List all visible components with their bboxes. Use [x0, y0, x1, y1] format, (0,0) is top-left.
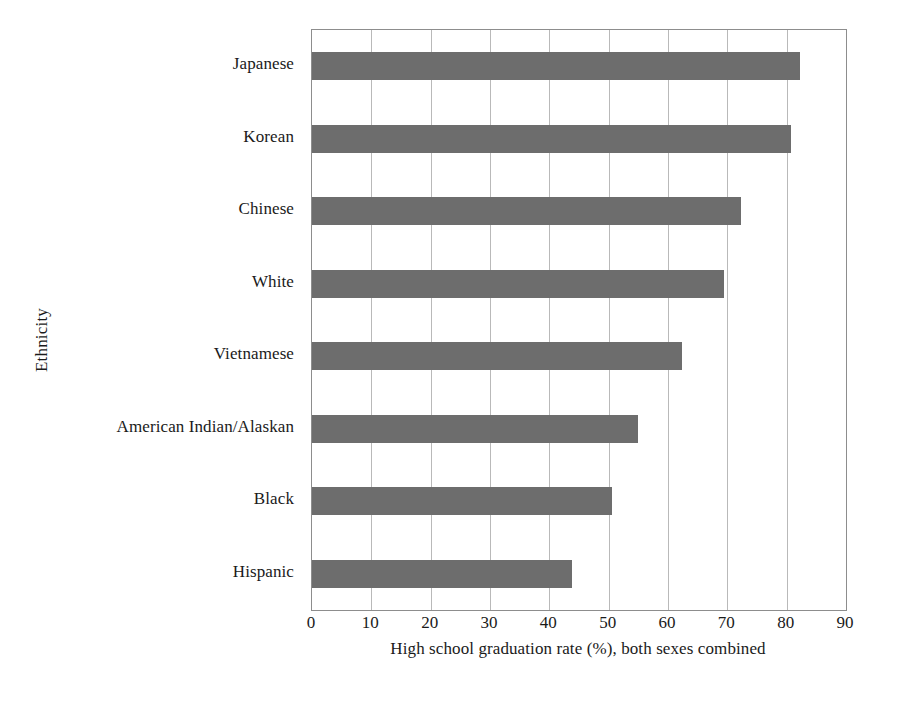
bar-chart-figure: Ethnicity JapaneseKoreanChineseWhiteViet… [0, 0, 897, 702]
x-axis-tick-label: 50 [588, 613, 628, 633]
x-axis-tick-label: 90 [825, 613, 865, 633]
x-axis-tick-label: 60 [647, 613, 687, 633]
y-axis-tick-label: Hispanic [233, 562, 294, 582]
bar [312, 52, 800, 80]
x-axis-title: High school graduation rate (%), both se… [311, 639, 845, 659]
y-axis-tick-label: White [252, 272, 294, 292]
x-axis-tick-labels: 0102030405060708090 [311, 613, 845, 639]
y-axis-tick-labels: JapaneseKoreanChineseWhiteVietnameseAmer… [0, 29, 302, 609]
x-axis-tick-label: 0 [291, 613, 331, 633]
y-axis-tick-label: Chinese [239, 199, 294, 219]
x-axis-tick-label: 70 [706, 613, 746, 633]
bar [312, 125, 791, 153]
y-axis-tick-label: Vietnamese [214, 344, 294, 364]
x-axis-tick-label: 30 [469, 613, 509, 633]
y-axis-tick-label: Japanese [233, 54, 294, 74]
bar [312, 270, 724, 298]
bar [312, 197, 741, 225]
x-axis-tick-label: 40 [528, 613, 568, 633]
bar [312, 415, 638, 443]
y-axis-tick-label: American Indian/Alaskan [117, 417, 294, 437]
y-axis-tick-label: Korean [243, 127, 294, 147]
bar [312, 342, 682, 370]
bar-series [312, 30, 846, 610]
plot-area [311, 29, 847, 611]
bar [312, 560, 572, 588]
x-axis-tick-label: 20 [410, 613, 450, 633]
y-axis-tick-label: Black [254, 489, 294, 509]
x-axis-tick-label: 10 [350, 613, 390, 633]
x-axis-tick-label: 80 [766, 613, 806, 633]
bar [312, 487, 612, 515]
